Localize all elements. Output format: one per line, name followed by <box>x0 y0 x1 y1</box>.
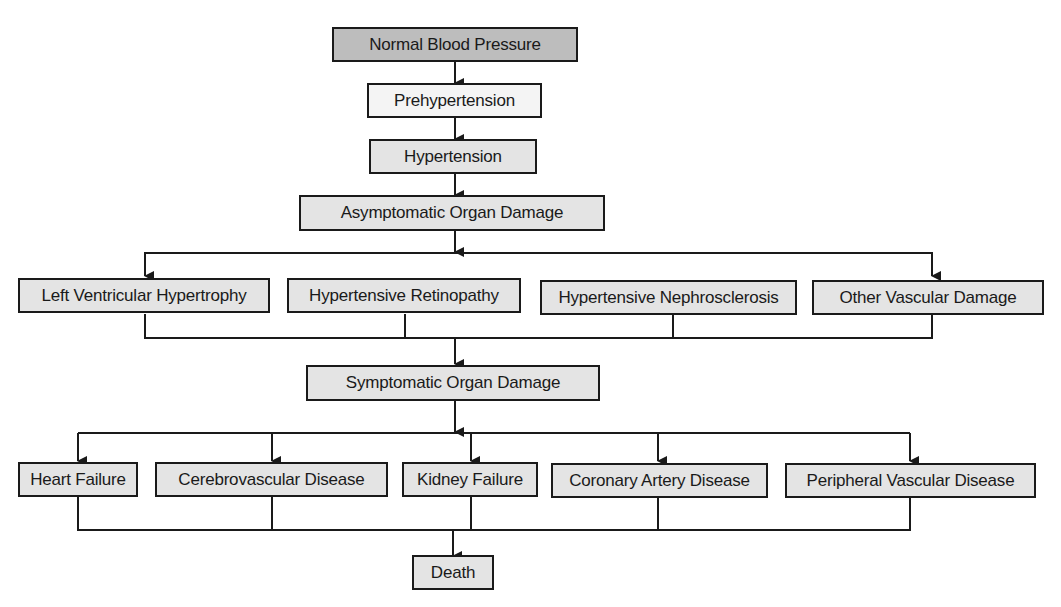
branch-bus-asymptomatic <box>145 253 932 275</box>
node-cerebrovascular-disease: Cerebrovascular Disease <box>155 462 388 497</box>
node-symptomatic-organ-damage: Symptomatic Organ Damage <box>306 365 600 401</box>
node-hypertension: Hypertension <box>369 139 537 174</box>
node-peripheral-vascular-disease: Peripheral Vascular Disease <box>785 463 1036 498</box>
merge-bus-organ-damage <box>145 314 932 338</box>
node-left-ventricular-hypertrophy: Left Ventricular Hypertrophy <box>18 278 270 313</box>
merge-bus-disease <box>78 497 910 530</box>
node-hypertensive-nephrosclerosis: Hypertensive Nephrosclerosis <box>540 280 797 315</box>
node-heart-failure: Heart Failure <box>18 462 138 497</box>
node-coronary-artery-disease: Coronary Artery Disease <box>551 463 768 498</box>
node-asymptomatic-organ-damage: Asymptomatic Organ Damage <box>299 195 605 231</box>
node-hypertensive-retinopathy: Hypertensive Retinopathy <box>287 278 521 313</box>
node-prehypertension: Prehypertension <box>367 83 542 118</box>
node-normal-blood-pressure: Normal Blood Pressure <box>332 27 578 62</box>
node-kidney-failure: Kidney Failure <box>402 462 538 497</box>
node-other-vascular-damage: Other Vascular Damage <box>812 280 1044 315</box>
node-death: Death <box>412 555 494 590</box>
hypertension-progression-flowchart: Normal Blood Pressure Prehypertension Hy… <box>0 0 1061 607</box>
